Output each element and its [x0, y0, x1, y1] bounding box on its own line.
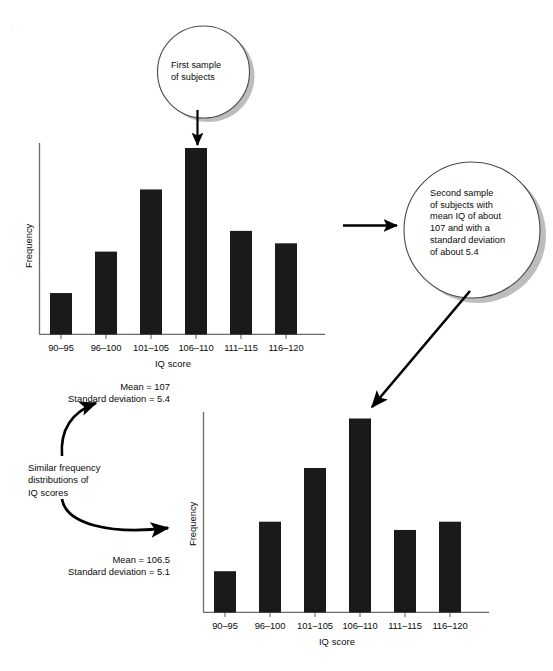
chart-bottom-xlabel: IQ score: [297, 636, 377, 648]
chart-top-bar-1: [95, 252, 117, 335]
chart-top-tick-1: 96–100: [81, 342, 131, 354]
chart-bottom-ylabel: Frequency: [187, 502, 198, 546]
chart-bottom-tick-3: 106–110: [335, 620, 385, 632]
chart-top-tick-3: 106–110: [171, 342, 221, 354]
chart-bottom-stats: Mean = 106.5 Standard deviation = 5.1: [10, 554, 170, 578]
chart-bottom-bar-4: [394, 530, 416, 613]
chart-bottom-bar-2: [304, 468, 326, 612]
chart-top-bar-2: [140, 189, 162, 334]
callout-first-sample-text: First sample of subjects: [171, 60, 241, 83]
chart-bottom-tick-0: 90–95: [200, 620, 250, 632]
figure-canvas: 123: [0, 0, 553, 671]
chart-bottom-tick-2: 101–105: [290, 620, 340, 632]
chart-bottom-bar-5: [439, 522, 461, 613]
chart-top-bars: [50, 148, 297, 335]
chart-top-bar-4: [230, 231, 252, 335]
chart-top-bar-0: [50, 293, 72, 334]
chart-bottom-bar-0: [214, 571, 236, 612]
chart-bottom-tick-5: 116–120: [425, 620, 475, 632]
chart-top-tick-4: 111–115: [216, 342, 266, 354]
chart-top-tick-2: 101–105: [126, 342, 176, 354]
chart-bottom-tick-4: 111–115: [380, 620, 430, 632]
chart-top-ylabel: Frequency: [23, 224, 34, 268]
arrow-note-to-top-stats: [62, 403, 96, 456]
chart-top-bar-5: [275, 243, 297, 334]
chart-top-bar-3: [185, 148, 207, 335]
chart-top-tick-0: 90–95: [36, 342, 86, 354]
chart-bottom-tick-1: 96–100: [245, 620, 295, 632]
arrow-note-to-chart-bottom: [62, 499, 168, 530]
chart-bottom-bars: [214, 419, 461, 613]
chart-top-stats: Mean = 107 Standard deviation = 5.4: [10, 381, 170, 405]
arrow-second-sample-to-chart-bottom: [372, 291, 470, 407]
chart-top-tick-5: 116–120: [261, 342, 311, 354]
similar-distributions-note: Similar frequency distributions of IQ sc…: [28, 462, 148, 499]
callout-second-sample-text: Second sample of subjects with mean IQ o…: [430, 188, 526, 258]
chart-bottom-bar-1: [259, 522, 281, 613]
chart-bottom-bar-3: [349, 419, 371, 613]
chart-top-xlabel: IQ score: [133, 358, 213, 370]
